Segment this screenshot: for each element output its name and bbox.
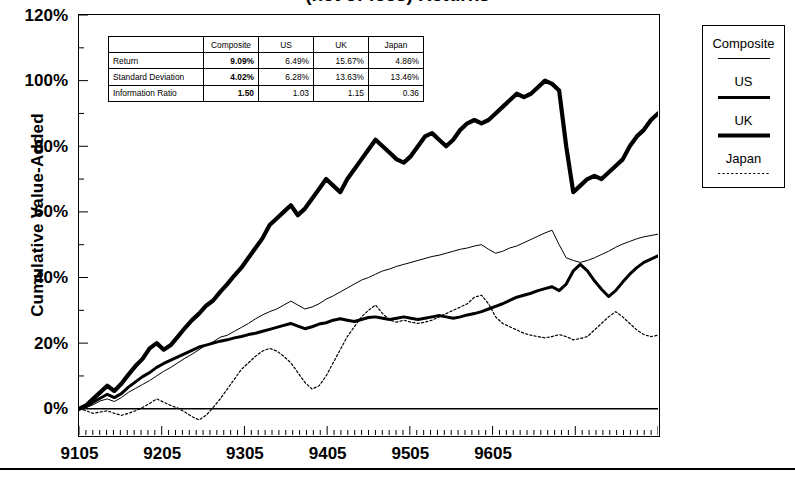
stats-col-header-composite: Composite xyxy=(204,37,259,53)
series-line-us xyxy=(79,256,658,409)
stats-row: Return9.09%6.49%15.67%4.86% xyxy=(109,53,424,69)
series-line-composite xyxy=(79,230,658,409)
series-line-japan xyxy=(79,295,658,420)
legend-box: CompositeUSUKJapan xyxy=(702,25,785,188)
legend-item-us: US xyxy=(703,74,784,100)
y-tick-20: 20% xyxy=(0,335,68,352)
stats-cell: 15.67% xyxy=(314,53,369,69)
stats-cell: 6.28% xyxy=(259,69,314,85)
stats-row-label: Information Ratio xyxy=(109,85,204,101)
y-tick-0: 0% xyxy=(0,400,68,417)
series-line-uk xyxy=(79,81,658,409)
stats-cell: 0.36 xyxy=(369,85,424,101)
stats-cell: 4.02% xyxy=(204,69,259,85)
stats-col-header-us: US xyxy=(259,37,314,53)
stats-cell: 1.15 xyxy=(314,85,369,101)
legend-line-sample xyxy=(717,94,771,101)
legend-label: UK xyxy=(734,113,752,129)
x-tick-9505: 9505 xyxy=(375,445,445,462)
stats-table-head: CompositeUSUKJapan xyxy=(109,37,424,53)
x-tick-9105: 9105 xyxy=(45,445,115,462)
stats-col-header-japan: Japan xyxy=(369,37,424,53)
statistics-table: CompositeUSUKJapan Return9.09%6.49%15.67… xyxy=(108,36,424,102)
y-tick-40: 40% xyxy=(0,269,68,286)
stats-row: Standard Deviation4.02%6.28%13.63%13.46% xyxy=(109,69,424,85)
y-tick-120: 120% xyxy=(0,7,68,24)
stats-row-label: Standard Deviation xyxy=(109,69,204,85)
stats-table-body: Return9.09%6.49%15.67%4.86%Standard Devi… xyxy=(109,53,424,102)
stats-header-row: CompositeUSUKJapan xyxy=(109,37,424,53)
y-tick-60: 60% xyxy=(0,203,68,220)
chart-title-text: (net of fees) Returns xyxy=(305,0,490,6)
x-tick-9305: 9305 xyxy=(210,445,280,462)
stats-cell: 1.50 xyxy=(204,85,259,101)
legend-item-uk: UK xyxy=(703,113,784,139)
chart-title-cropped: (net of fees) Returns xyxy=(0,0,795,12)
legend-line-sample xyxy=(717,170,771,177)
stats-cell: 9.09% xyxy=(204,53,259,69)
bottom-divider-rule xyxy=(0,468,795,470)
stats-cell: 13.63% xyxy=(314,69,369,85)
stats-cell: 13.46% xyxy=(369,69,424,85)
stats-row-label: Return xyxy=(109,53,204,69)
stats-row: Information Ratio1.501.031.150.36 xyxy=(109,85,424,101)
stats-corner-cell xyxy=(109,37,204,53)
y-tick-80: 80% xyxy=(0,138,68,155)
legend-item-composite: Composite xyxy=(703,36,784,62)
stats-cell: 1.03 xyxy=(259,85,314,101)
stats-col-header-uk: UK xyxy=(314,37,369,53)
legend-line-sample xyxy=(717,55,771,62)
x-tick-9605: 9605 xyxy=(458,445,528,462)
chart-figure: (net of fees) Returns Cumulative Value-A… xyxy=(0,0,795,480)
x-tick-9205: 9205 xyxy=(127,445,197,462)
legend-line-sample xyxy=(717,132,771,139)
legend-label: Composite xyxy=(712,36,774,52)
stats-cell: 4.86% xyxy=(369,53,424,69)
x-tick-9405: 9405 xyxy=(293,445,363,462)
legend-item-japan: Japan xyxy=(703,151,784,177)
legend-label: US xyxy=(734,74,752,90)
legend-label: Japan xyxy=(726,151,761,167)
y-tick-100: 100% xyxy=(0,72,68,89)
stats-cell: 6.49% xyxy=(259,53,314,69)
